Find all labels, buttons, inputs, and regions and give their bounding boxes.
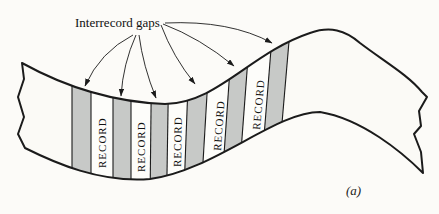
figure-caption: (a) [346,183,361,198]
gap-arrow [165,23,272,43]
record-band-label: RECORD [135,121,147,172]
record-band-label: RECORD [171,116,184,167]
gap-arrow [85,35,133,86]
tape-diagram: RECORD RECORD RECORD RECORD RECORD Inter… [0,0,439,214]
gap-arrow [163,24,234,66]
record-band-label: RECORD [96,117,108,168]
gap-arrow [161,25,195,84]
figure-canvas: RECORD RECORD RECORD RECORD RECORD Inter… [0,0,439,214]
interrecord-gap [72,18,91,205]
gap-arrow [139,35,156,98]
gap-arrow [121,35,136,96]
interrecord-gaps-label: Interrecord gaps [75,15,160,30]
record-band [131,18,152,205]
